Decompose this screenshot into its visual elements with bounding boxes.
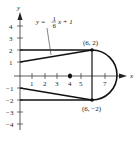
svg-text:x + 1: x + 1: [57, 18, 73, 26]
y-tick-label: −4: [6, 121, 14, 129]
y-tick-label: 4: [9, 23, 13, 31]
y-tick-label: 3: [9, 35, 13, 43]
x-tick-label: 7: [103, 80, 107, 88]
equation-annotation: y = 1 6 x + 1: [35, 15, 73, 56]
point-label-top: (6, 2): [83, 39, 99, 47]
point-label-bottom: (6, −2): [82, 105, 102, 113]
point-4-0: [68, 74, 72, 78]
point-6-neg2: [90, 98, 94, 102]
line-slant-upper: [20, 50, 92, 62]
x-tick-label: 4: [68, 80, 72, 88]
y-tick-label: −2: [6, 97, 14, 105]
chart: 4 3 2 1 −1 −2 −3 −4 1 2 3 4 5 7 x y (6, …: [0, 0, 140, 141]
y-tick-label: −3: [6, 109, 14, 117]
x-tick-label: 3: [55, 80, 59, 88]
x-tick-label: 1: [30, 80, 34, 88]
x-axis-label: x: [129, 72, 134, 80]
y-tick-label: −1: [6, 85, 14, 93]
point-6-2: [90, 48, 94, 52]
y-axis-label: y: [16, 4, 21, 12]
y-axis-arrow-icon: [18, 12, 23, 20]
x-tick-label: 2: [43, 80, 47, 88]
line-slant-lower: [20, 88, 92, 100]
semicircle-arc: [92, 50, 117, 100]
x-tick-label: 5: [79, 80, 83, 88]
svg-text:y =: y =: [35, 18, 46, 26]
svg-text:6: 6: [53, 22, 57, 30]
leader-line: [47, 28, 51, 55]
y-tick-label: 1: [9, 59, 13, 67]
x-axis-arrow-icon: [119, 74, 127, 79]
y-tick-label: 2: [9, 47, 13, 55]
